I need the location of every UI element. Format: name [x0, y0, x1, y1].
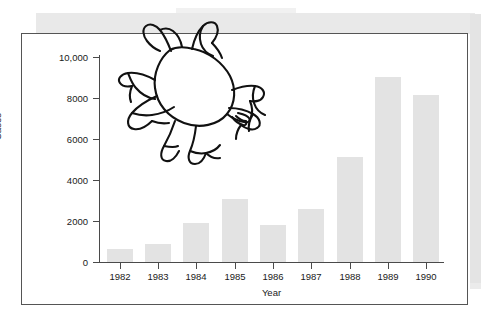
y-tick-label-6000: 6000	[22, 134, 88, 145]
y-tick-label-4000: 4000	[22, 175, 88, 186]
y-tick-label-10000: 10,000	[22, 52, 88, 63]
x-tick-mark-1983	[158, 263, 159, 269]
bar-1988	[337, 157, 363, 262]
x-tick-mark-1988	[350, 263, 351, 269]
page-shadow-bottom	[470, 283, 481, 289]
x-tick-mark-1986	[273, 263, 274, 269]
bar-1982	[107, 249, 133, 262]
y-axis-line	[99, 55, 100, 263]
x-tick-mark-1982	[120, 263, 121, 269]
x-tick-label-1990: 1990	[403, 271, 449, 282]
figure-canvas: Cases 0 2000 4000 6000 8000 10,000 198	[0, 0, 499, 327]
y-tick-label-8000: 8000	[22, 93, 88, 104]
x-tick-mark-1985	[235, 263, 236, 269]
bar-1984	[183, 223, 209, 262]
x-axis-line	[99, 262, 444, 263]
bar-1987	[298, 209, 324, 262]
bar-1990	[413, 95, 439, 262]
x-tick-mark-1989	[388, 263, 389, 269]
x-axis-title: Year	[99, 287, 444, 298]
bar-1985	[222, 199, 248, 262]
bar-1989	[375, 77, 401, 262]
page-shadow-right	[470, 14, 481, 288]
x-tick-mark-1987	[311, 263, 312, 269]
y-tick-label-2000: 2000	[22, 216, 88, 227]
y-axis-title: Cases	[0, 113, 3, 140]
x-tick-mark-1990	[426, 263, 427, 269]
bar-1986	[260, 225, 286, 262]
scan-artifact-band	[36, 13, 475, 34]
x-tick-mark-1984	[196, 263, 197, 269]
bar-1983	[145, 244, 171, 262]
y-tick-label-0: 0	[22, 257, 88, 268]
